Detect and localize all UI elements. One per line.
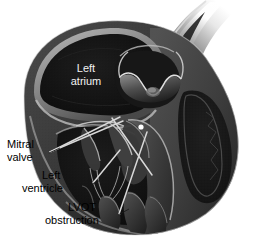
label-left-ventricle-line2: ventricle <box>22 182 63 194</box>
label-left-atrium-line2: atrium <box>71 75 102 87</box>
label-left-atrium-line1: Left <box>77 62 95 74</box>
label-lvot-line1: LVOT <box>68 201 96 213</box>
heart-illustration-figure: Left atrium Mitral valve Left ventricle … <box>0 0 254 242</box>
heart-cross-section-diagram: Left atrium Mitral valve Left ventricle … <box>0 0 254 242</box>
lvot-marker-dot <box>138 124 143 129</box>
label-mitral-valve-line2: valve <box>7 151 33 163</box>
label-mitral-valve: Mitral valve <box>7 138 34 163</box>
label-lvot-line2: obstruction <box>45 214 99 226</box>
label-left-ventricle-line1: Left <box>42 169 60 181</box>
label-mitral-valve-line1: Mitral <box>7 138 34 150</box>
